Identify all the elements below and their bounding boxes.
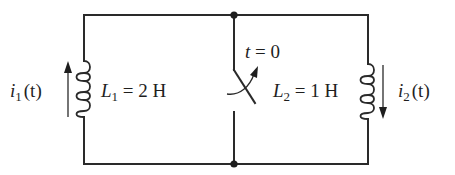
inductor-L2-coil-icon [361, 64, 375, 119]
current-i2-label: i2(t) [398, 80, 430, 104]
i2-arg: (t) [412, 80, 430, 102]
inductor-L1-label: L1 = 2 H [100, 80, 167, 104]
inductor-L2 [361, 15, 375, 164]
L2-value: = 1 H [290, 80, 338, 101]
circuit-diagram: i1(t) L1 = 2 H t = 0 L2 = 1 H i2(t) [0, 0, 455, 175]
L2-symbol: L [272, 80, 284, 101]
current-i1-label: i1(t) [10, 80, 42, 104]
switch-time-label: t = 0 [245, 41, 280, 62]
switch-t-value: = 0 [250, 41, 280, 62]
i2-subscript: 2 [403, 89, 410, 104]
bottom-junction-node [230, 160, 237, 167]
top-junction-node [230, 11, 237, 18]
inductor-L1-coil-icon [77, 61, 91, 117]
switch-S [227, 15, 258, 164]
switch-action-arrow-icon [227, 74, 254, 94]
i1-subscript: 1 [15, 89, 22, 104]
inductor-L1 [77, 15, 91, 164]
i1-arg: (t) [24, 80, 42, 102]
current-i1-arrow-icon [64, 61, 72, 117]
inductor-L2-label: L2 = 1 H [272, 80, 339, 104]
L1-symbol: L [100, 80, 112, 101]
current-i2-arrow-icon [379, 65, 387, 119]
L1-value: = 2 H [118, 80, 166, 101]
switch-arrowhead-icon [250, 66, 258, 78]
